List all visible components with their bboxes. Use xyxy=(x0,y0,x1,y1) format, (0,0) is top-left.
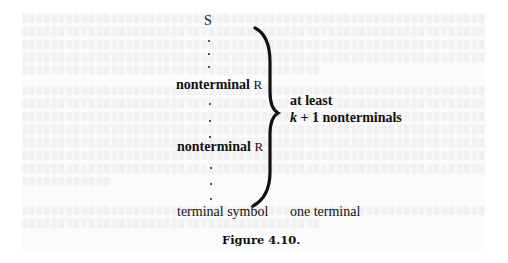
ellipsis-dot xyxy=(210,167,212,169)
brace-label-line1: at least xyxy=(290,92,402,109)
ellipsis-dot xyxy=(209,120,211,122)
ellipsis-dot xyxy=(209,136,211,138)
ellipsis-dot xyxy=(208,53,210,55)
brace-label-line2: k + 1 nonterminals xyxy=(290,109,402,126)
variable-k: k xyxy=(290,110,297,125)
ellipsis-dot xyxy=(210,198,212,200)
brace-label-line2-rest: + 1 nonterminals xyxy=(297,110,402,125)
ellipsis-dot xyxy=(208,40,210,42)
ellipsis-dot xyxy=(208,66,210,68)
terminal-note: one terminal xyxy=(290,204,360,220)
start-symbol: S xyxy=(204,13,212,29)
ellipsis-dot xyxy=(210,183,212,185)
figure-caption: Figure 4.10. xyxy=(222,233,300,247)
nonterminal-word: nonterminal xyxy=(176,77,250,92)
brace-annotation: at least k + 1 nonterminals xyxy=(290,92,402,126)
ellipsis-dot xyxy=(209,103,211,105)
curly-brace-icon xyxy=(250,22,290,212)
nonterminal-word: nonterminal xyxy=(177,139,251,154)
